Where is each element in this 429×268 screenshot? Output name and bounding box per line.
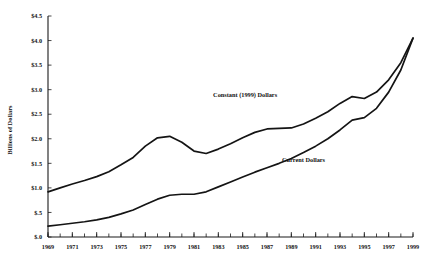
y-axis-tick-label: $.5 (34, 209, 42, 216)
x-axis-tick-label: 1977 (139, 243, 151, 250)
x-axis-tick-label: 1969 (42, 243, 54, 250)
x-axis-tick-label: 1995 (358, 243, 370, 250)
y-axis-tick-labels: $.0$.5$1.0$1.5$2.0$2.5$3.0$3.5$4.0$4.5 (31, 12, 42, 240)
x-axis-tick-label: 1999 (407, 243, 419, 250)
x-axis-tick-label: 1979 (163, 243, 175, 250)
x-axis-tick-label: 1993 (334, 243, 346, 250)
x-axis-tick-label: 1991 (309, 243, 321, 250)
data-series-line (48, 38, 413, 192)
x-axis-tick-label: 1989 (285, 243, 297, 250)
y-axis-tick-label: $2.5 (31, 110, 42, 117)
x-axis-tick-label: 1981 (188, 243, 200, 250)
chart-plot-area: Billions of Dollars $.0$.5$1.0$1.5$2.0$2… (0, 0, 429, 268)
x-axis-tick-label: 1983 (212, 243, 224, 250)
series-annotation-label: Constant (1999) Dollars (213, 91, 278, 99)
data-series-group (48, 38, 413, 226)
line-chart: Billions of Dollars $.0$.5$1.0$1.5$2.0$2… (0, 0, 429, 268)
y-axis-tick-label: $4.0 (31, 37, 42, 44)
y-axis-tick-label: $3.0 (31, 86, 42, 93)
y-axis-tick-label: $3.5 (31, 61, 42, 68)
y-axis-tick-label: $.0 (34, 233, 42, 240)
y-axis-title-group: Billions of Dollars (6, 105, 13, 155)
y-axis-tick-label: $1.5 (31, 160, 42, 167)
x-axis-tick-marks (48, 232, 413, 237)
x-axis-tick-labels: 1969197119731975197719791981198319851987… (42, 243, 419, 250)
data-series-line (48, 38, 413, 226)
x-axis-tick-label: 1973 (90, 243, 102, 250)
series-annotation-label: Current Dollars (282, 156, 326, 163)
x-axis-tick-label: 1971 (66, 243, 78, 250)
series-annotation-group: Constant (1999) DollarsCurrent Dollars (213, 91, 326, 164)
x-axis-tick-label: 1987 (261, 243, 273, 250)
y-axis-title: Billions of Dollars (6, 105, 13, 155)
x-axis-tick-label: 1997 (382, 243, 394, 250)
y-axis-tick-label: $2.0 (31, 135, 42, 142)
y-axis-tick-label: $4.5 (31, 12, 42, 19)
y-axis-tick-label: $1.0 (31, 184, 42, 191)
x-axis-tick-label: 1975 (115, 243, 127, 250)
x-axis-tick-label: 1985 (236, 243, 248, 250)
